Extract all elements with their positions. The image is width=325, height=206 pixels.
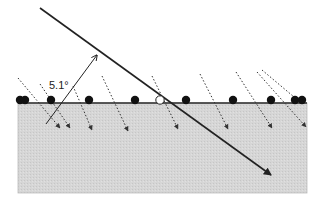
medium-block xyxy=(18,103,307,193)
atom-filled xyxy=(47,96,55,104)
atom-filled xyxy=(229,96,237,104)
angle-label: 5.1° xyxy=(49,79,69,91)
atom-filled xyxy=(21,96,29,104)
refraction-diagram: 5.1° xyxy=(0,0,325,206)
atom-open xyxy=(156,96,164,104)
atom-filled xyxy=(131,96,139,104)
atom-filled xyxy=(182,96,190,104)
atom-filled xyxy=(298,96,306,104)
atom-filled xyxy=(85,96,93,104)
atom-filled xyxy=(267,96,275,104)
